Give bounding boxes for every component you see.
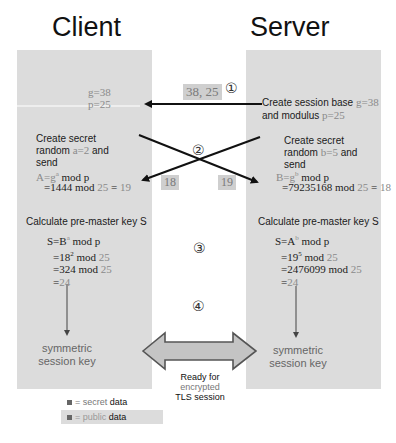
legend-secret: = secret data [67, 397, 127, 408]
step-2-marker: ② [192, 142, 205, 158]
step-3-marker: ③ [193, 240, 206, 256]
message-g-p: 38, 25 [183, 84, 222, 100]
public-swatch-icon [67, 415, 72, 420]
server-calc-title: Calculate pre-master key S [258, 216, 379, 227]
step-4-marker: ④ [192, 298, 205, 314]
ready-double-arrow [143, 333, 256, 369]
server-session-key: symmetric session key [266, 344, 330, 370]
server-S-calc: S=Ab mod p =195 mod 25 =2476099 mod 25 =… [275, 232, 362, 289]
client-create-secret: Create secret random a=2 and send [36, 133, 109, 168]
server-create-base: Create session base g=38 and modulus p=2… [262, 96, 379, 122]
server-create-secret: Create secret random b=5 and send [284, 135, 357, 170]
server-B-calc: =79235168 mod 25 = 18 [282, 181, 391, 194]
secret-swatch-icon [67, 400, 72, 405]
client-p-value: p=25 [88, 98, 111, 111]
message-B-value: 19 [218, 175, 236, 190]
client-S-calc: S=Ba mod p =182 mod 25 =324 mod 25 =24 [47, 232, 112, 289]
client-calc-title: Calculate pre-master key S [26, 216, 147, 227]
client-A-calc: =1444 mod 25 = 19 [44, 181, 131, 194]
legend-public: = public data [67, 412, 126, 423]
client-session-key: symmetric session key [37, 342, 97, 368]
message-A-value: 18 [161, 175, 179, 190]
ready-label: Ready for encrypted TLS session [170, 372, 230, 402]
step-1-marker: ① [225, 80, 238, 96]
